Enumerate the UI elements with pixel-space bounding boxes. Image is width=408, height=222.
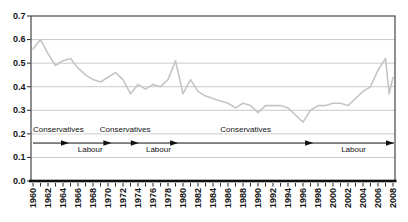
- x-tick-label: 1972: [118, 188, 128, 208]
- y-tick-label: 0.5: [13, 58, 26, 68]
- government-period-label: Conservatives: [220, 125, 271, 134]
- y-tick-label: 0.7: [13, 11, 26, 21]
- x-tick-label: 1992: [268, 188, 278, 208]
- x-tick-label: 1970: [103, 188, 113, 208]
- x-tick-label: 1994: [283, 188, 293, 208]
- x-tick-label: 2006: [373, 188, 383, 208]
- line-chart-canvas: ConservativesLabourConservativesLabourCo…: [0, 0, 408, 222]
- government-period-label: Labour: [146, 145, 171, 154]
- x-tick-label: 1960: [28, 188, 38, 208]
- y-tick-label: 0.3: [13, 105, 26, 115]
- x-tick-label: 1996: [298, 188, 308, 208]
- x-tick-label: 1968: [88, 188, 98, 208]
- arrow-right-icon: [61, 140, 69, 146]
- y-tick-label: 0.0: [13, 176, 26, 186]
- government-period-label: Labour: [78, 145, 103, 154]
- x-tick-label: 1990: [253, 188, 263, 208]
- x-tick-label: 1984: [208, 188, 218, 208]
- x-tick-label: 2002: [343, 188, 353, 208]
- arrow-right-icon: [170, 140, 178, 146]
- government-period-label: Conservatives: [100, 125, 151, 134]
- government-period-label: Conservatives: [33, 125, 84, 134]
- data-series-line: [33, 40, 393, 123]
- x-tick-label: 1982: [193, 188, 203, 208]
- government-period-label: Labour: [341, 145, 366, 154]
- y-tick-label: 0.6: [13, 34, 26, 44]
- x-tick-label: 1980: [178, 188, 188, 208]
- x-tick-label: 1976: [148, 188, 158, 208]
- y-tick-label: 0.2: [13, 129, 26, 139]
- arrow-right-icon: [103, 140, 111, 146]
- x-tick-label: 2000: [328, 188, 338, 208]
- x-tick-label: 2008: [388, 188, 398, 208]
- x-tick-label: 2004: [358, 188, 368, 208]
- arrow-right-icon: [386, 140, 394, 146]
- x-tick-label: 1966: [73, 188, 83, 208]
- x-tick-label: 1998: [313, 188, 323, 208]
- x-tick-label: 1978: [163, 188, 173, 208]
- x-tick-label: 1986: [223, 188, 233, 208]
- x-tick-label: 1964: [58, 188, 68, 208]
- y-tick-label: 0.1: [13, 152, 26, 162]
- x-axis-line: [29, 180, 397, 183]
- line-chart-figure: ConservativesLabourConservativesLabourCo…: [0, 0, 408, 222]
- x-tick-label: 1988: [238, 188, 248, 208]
- x-tick-label: 1974: [133, 188, 143, 208]
- y-tick-label: 0.4: [13, 82, 26, 92]
- x-tick-label: 1962: [43, 188, 53, 208]
- arrow-right-icon: [131, 140, 139, 146]
- arrow-right-icon: [305, 140, 313, 146]
